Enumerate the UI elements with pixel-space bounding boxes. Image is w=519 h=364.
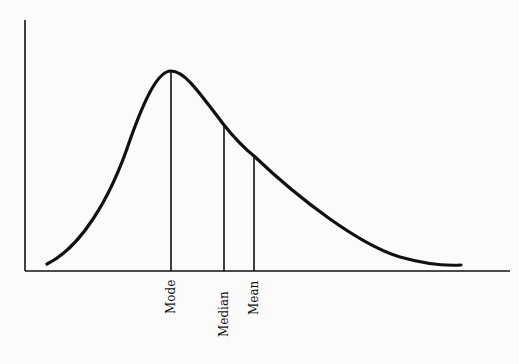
skewed-distribution-diagram: Mode Median Mean (0, 0, 519, 364)
mean-label: Mean (247, 280, 261, 315)
mode-label: Mode (164, 280, 178, 314)
median-label: Median (217, 291, 231, 337)
